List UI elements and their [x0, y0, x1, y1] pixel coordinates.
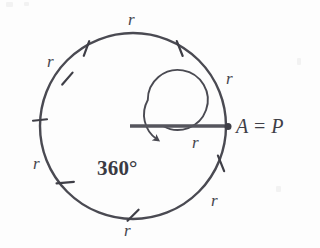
point-a-dot: [225, 123, 232, 130]
figure-canvas: r r r r r r r 360° A = P: [0, 0, 320, 248]
arc-label-lower-left: r: [33, 155, 40, 172]
arc-label-lower-right: r: [211, 192, 218, 209]
arc-label-upper-right: r: [226, 70, 233, 87]
angle-measure-label: 360°: [97, 158, 138, 179]
radius-length-label: r: [192, 134, 199, 151]
arc-label-bottom: r: [124, 222, 131, 239]
tick-mark: [33, 119, 47, 120]
point-label-a-equals-p: A = P: [236, 116, 284, 136]
arc-label-top: r: [128, 11, 135, 28]
sweep-arc: [144, 70, 208, 139]
tick-marks: [33, 41, 229, 223]
tick-mark: [60, 73, 76, 85]
arc-label-upper-left: r: [47, 53, 54, 70]
